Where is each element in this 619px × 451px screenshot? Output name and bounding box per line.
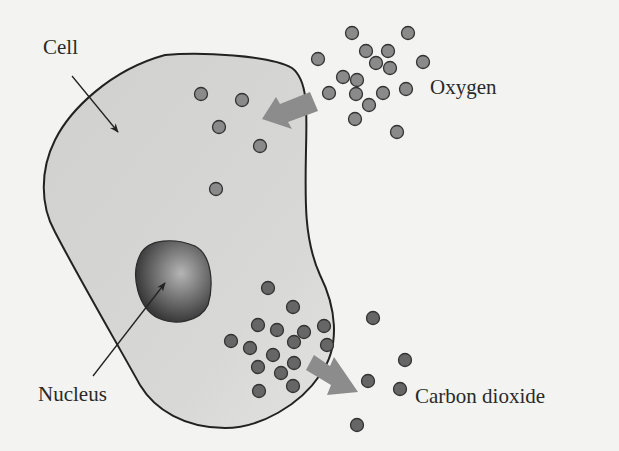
oxygen-molecule	[312, 53, 325, 66]
carbon-dioxide-label: Carbon dioxide	[415, 386, 545, 407]
co2-molecule	[244, 342, 257, 355]
oxygen-molecule	[370, 57, 383, 70]
oxygen-molecule	[363, 99, 376, 112]
oxygen-molecule	[350, 88, 363, 101]
co2-molecule	[399, 354, 412, 367]
oxygen-molecule	[382, 45, 395, 58]
oxygen-molecule	[377, 87, 390, 100]
oxygen-molecule	[384, 62, 397, 75]
co2-molecule	[287, 380, 300, 393]
co2-molecule	[262, 282, 275, 295]
co2-molecule	[362, 375, 375, 388]
co2-molecule	[252, 319, 265, 332]
oxygen-molecule	[236, 94, 249, 107]
oxygen-molecule	[417, 56, 430, 69]
oxygen-molecule	[349, 113, 362, 126]
co2-molecule	[367, 312, 380, 325]
co2-molecule	[271, 324, 284, 337]
oxygen-molecule	[195, 88, 208, 101]
co2-molecule	[351, 419, 364, 432]
co2-molecule	[287, 301, 300, 314]
oxygen-molecule	[346, 27, 359, 40]
co2-molecule	[321, 339, 334, 352]
oxygen-molecule	[391, 126, 404, 139]
co2-molecule	[298, 326, 311, 339]
nucleus-label: Nucleus	[38, 384, 107, 405]
co2-molecule	[225, 335, 238, 348]
oxygen-molecule	[323, 87, 336, 100]
oxygen-molecule	[213, 121, 226, 134]
oxygen-molecule	[402, 27, 415, 40]
co2-molecule	[318, 320, 331, 333]
oxygen-molecule	[337, 71, 350, 84]
co2-molecule	[288, 336, 301, 349]
co2-molecule	[275, 367, 288, 380]
co2-molecule	[288, 357, 301, 370]
oxygen-molecule	[400, 83, 413, 96]
co2-molecule	[394, 383, 407, 396]
oxygen-molecule	[360, 45, 373, 58]
gas-exchange-diagram: Cell Oxygen Nucleus Carbon dioxide	[0, 0, 619, 451]
co2-molecule	[267, 349, 280, 362]
oxygen-molecule	[254, 140, 267, 153]
co2-molecule	[252, 361, 265, 374]
oxygen-label: Oxygen	[430, 77, 497, 98]
oxygen-molecule	[351, 74, 364, 87]
co2-molecule	[253, 385, 266, 398]
nucleus	[136, 241, 211, 322]
oxygen-molecule	[210, 183, 223, 196]
cell-label: Cell	[43, 37, 78, 58]
